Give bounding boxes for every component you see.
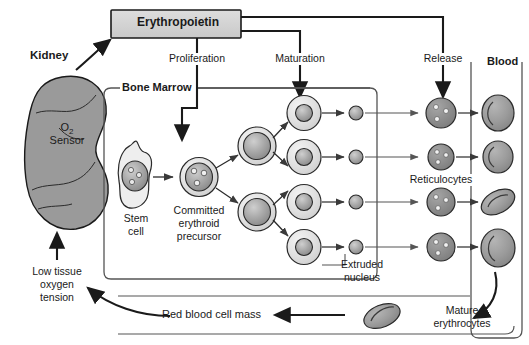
stem-cell-label-2: cell xyxy=(128,226,144,238)
maturation-label: Maturation xyxy=(273,53,327,65)
red-blood-cell-mass-label: Red blood cell mass xyxy=(162,309,261,321)
committed-label-1: Committed xyxy=(174,205,225,217)
low-oxygen-label-2: oxygen xyxy=(40,279,74,291)
low-oxygen-label-1: Low tissue xyxy=(32,266,82,278)
reticulocyte-1 xyxy=(426,98,456,128)
mature-erythrocyte xyxy=(360,299,403,334)
reticulocyte-4 xyxy=(427,233,455,261)
blood-erythrocyte-3 xyxy=(477,184,519,220)
erythroblast-stage2-3 xyxy=(287,185,321,220)
committed-label-2: erythroid xyxy=(179,218,220,230)
epo-to-release-line xyxy=(241,17,443,64)
feedback-to-low-oxygen-arrow xyxy=(88,288,170,316)
reticulocyte-3 xyxy=(427,188,455,216)
mature-erythrocytes-label-2: erythrocytes xyxy=(433,318,490,330)
blood-erythrocyte-4 xyxy=(481,229,515,267)
bone-marrow-label: Bone Marrow xyxy=(120,82,194,94)
reticulocyte-2 xyxy=(428,144,454,170)
o2-sensor-label-line2: Sensor xyxy=(50,135,85,147)
kidney-label: Kidney xyxy=(30,50,68,62)
erythroblast-stage2-4 xyxy=(287,230,321,265)
erythroblast-stage2-1 xyxy=(287,96,321,131)
erythroblast-stage1-lower xyxy=(238,193,276,231)
stage1-upper-branch-a xyxy=(273,122,288,138)
reticulocytes-label: Reticulocytes xyxy=(408,174,474,186)
kidney-shape xyxy=(25,76,109,229)
erythropoiesis-diagram: Erythropoietin Kidney O2 Sensor Low tiss… xyxy=(0,0,529,345)
extruded-nucleus-1 xyxy=(349,106,363,120)
low-oxygen-label-3: tension xyxy=(40,292,74,304)
extruded-nucleus-label-1: Extruded xyxy=(341,259,383,271)
kidney-to-epo-arrow xyxy=(76,40,110,70)
extruded-nucleus-4 xyxy=(349,240,363,254)
blood-label: Blood xyxy=(487,56,518,68)
blood-erythrocyte-2 xyxy=(483,141,513,173)
stem-cell xyxy=(118,141,151,208)
proliferation-label: Proliferation xyxy=(167,53,227,65)
stage1-lower-branch-b xyxy=(273,220,288,236)
committed-erythroid-precursor xyxy=(180,158,218,197)
extruded-nucleus-3 xyxy=(349,195,363,209)
erythroblast-stage1-upper xyxy=(238,127,276,165)
mature-erythrocytes-label-1: Mature xyxy=(446,305,479,317)
erythropoietin-box-label: Erythropoietin xyxy=(137,17,219,29)
stage1-upper-branch-b xyxy=(273,152,288,166)
stage1-lower-branch-a xyxy=(273,191,288,205)
erythroblast-stage2-2 xyxy=(287,140,321,175)
committed-label-3: precursor xyxy=(177,231,221,243)
precursor-branch-down xyxy=(216,188,238,203)
extruded-nucleus-label-2: nucleus xyxy=(344,272,380,284)
blood-erythrocyte-1 xyxy=(482,95,514,131)
stem-cell-label-1: Stem xyxy=(124,213,149,225)
extruded-nucleus-2 xyxy=(349,150,363,164)
precursor-branch-up xyxy=(216,155,238,168)
o2-symbol: O xyxy=(60,121,69,133)
release-label: Release xyxy=(422,53,465,65)
proliferation-arrow xyxy=(182,64,197,140)
